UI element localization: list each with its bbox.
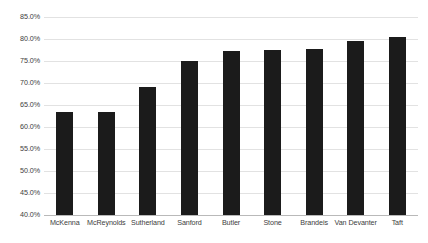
x-tick-label: McKenna [50,218,80,227]
bar[interactable] [223,51,240,215]
y-tick-label: 75.0% [0,57,40,65]
bar[interactable] [347,41,364,215]
bar[interactable] [264,50,281,215]
bar[interactable] [56,112,73,215]
y-tick-label: 60.0% [0,123,40,131]
y-tick-label: 55.0% [0,145,40,153]
axis-baseline [44,215,418,216]
y-axis: 85.0%80.0%75.0%70.0%65.0%60.0%55.0%50.0%… [0,0,40,243]
bar-chart: 85.0%80.0%75.0%70.0%65.0%60.0%55.0%50.0%… [0,0,428,243]
x-tick-label: Stone [263,218,281,227]
bar[interactable] [306,49,323,215]
x-tick-label: McReynolds [87,218,126,227]
x-tick-label: Sanford [177,218,201,227]
y-tick-label: 40.0% [0,211,40,219]
x-tick-label: Van Devanter [335,218,377,227]
bar[interactable] [389,37,406,215]
y-tick-label: 45.0% [0,189,40,197]
y-tick-label: 85.0% [0,13,40,21]
y-tick-label: 65.0% [0,101,40,109]
y-tick-label: 80.0% [0,35,40,43]
x-tick-label: Taft [392,218,403,227]
bar[interactable] [98,112,115,215]
x-tick-label: Sutherland [131,218,165,227]
y-tick-label: 50.0% [0,167,40,175]
x-axis: McKennaMcReynoldsSutherlandSanfordButler… [44,218,418,238]
x-tick-label: Butler [222,218,240,227]
bars-layer [44,17,418,215]
x-tick-label: Brandeis [300,218,328,227]
bar[interactable] [181,61,198,215]
bar[interactable] [139,87,156,215]
y-tick-label: 70.0% [0,79,40,87]
